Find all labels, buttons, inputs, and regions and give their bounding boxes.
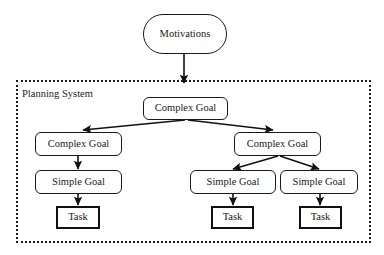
node-label: Complex Goal <box>155 103 217 114</box>
node-label: Motivations <box>160 29 211 40</box>
edge-root-to-complex-right <box>188 120 273 130</box>
node-complex-goal-root[interactable]: Complex Goal <box>143 97 228 120</box>
node-label: Task <box>311 212 331 223</box>
node-label: Simple Goal <box>52 177 105 188</box>
node-simple-goal-left[interactable]: Simple Goal <box>35 170 122 194</box>
node-label: Complex Goal <box>247 139 309 150</box>
node-label: Simple Goal <box>207 177 260 188</box>
node-simple-goal-middle[interactable]: Simple Goal <box>190 170 276 194</box>
node-task-left[interactable]: Task <box>56 206 100 229</box>
node-task-middle[interactable]: Task <box>211 206 254 229</box>
node-label: Complex Goal <box>48 139 110 150</box>
diagram-canvas: Planning System MotivationsComplex GoalC… <box>0 0 384 255</box>
node-complex-goal-right[interactable]: Complex Goal <box>234 132 321 156</box>
edge-root-to-complex-left <box>83 120 185 130</box>
node-motivations[interactable]: Motivations <box>143 14 227 54</box>
node-task-right[interactable]: Task <box>299 206 342 229</box>
node-complex-goal-left[interactable]: Complex Goal <box>35 132 122 156</box>
edge-complex-right-to-simple-middle <box>233 156 278 169</box>
node-simple-goal-right[interactable]: Simple Goal <box>280 170 358 194</box>
node-label: Simple Goal <box>293 177 346 188</box>
node-label: Task <box>68 212 88 223</box>
edge-complex-right-to-simple-right <box>280 156 319 169</box>
node-label: Task <box>223 212 243 223</box>
